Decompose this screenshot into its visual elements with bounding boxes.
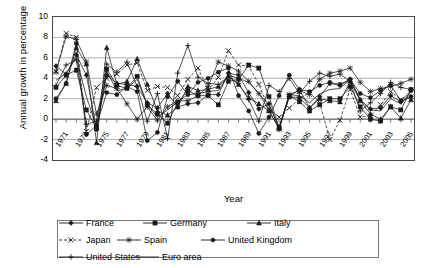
legend-item-spain[interactable]: Spain <box>116 232 200 249</box>
y-tick-8: 8 <box>26 32 48 41</box>
x-axis-tick-labels: 1971197319751977197919811983198519871989… <box>52 140 415 182</box>
legend-label: Germany <box>168 218 207 228</box>
legend-label: United Kingdom <box>226 235 292 245</box>
y-tick-10: 10 <box>26 12 48 21</box>
legend-item-japan[interactable]: Japan <box>58 232 116 249</box>
y-tick-0: 0 <box>26 114 48 123</box>
legend-item-italy[interactable]: Italy <box>246 215 322 232</box>
legend-label: Japan <box>84 235 111 245</box>
series-united-kingdom <box>54 41 413 142</box>
chart-screenshot: Annual growth in percentage 1086420-2-4 … <box>0 0 434 268</box>
y-axis-tick-labels: 1086420-2-4 <box>24 0 48 268</box>
y-tick-4: 4 <box>26 73 48 82</box>
legend-label: Euro area <box>160 252 202 262</box>
x-marker-icon <box>58 234 84 246</box>
line-marker-icon <box>134 251 160 263</box>
legend-label: France <box>84 218 114 228</box>
chart-legend: FranceGermanyItalyJapanSpainUnited Kingd… <box>57 220 379 258</box>
plus-marker-icon <box>58 251 84 263</box>
legend-label: United States <box>84 252 140 262</box>
y-tick-neg4: -4 <box>26 155 48 164</box>
legend-item-euro-area[interactable]: Euro area <box>134 249 192 266</box>
legend-item-germany[interactable]: Germany <box>142 215 246 232</box>
legend-item-united-kingdom[interactable]: United Kingdom <box>200 232 304 249</box>
diamond-marker-icon <box>58 217 84 229</box>
x-axis-title: Year <box>52 193 415 204</box>
circle-marker-icon <box>200 234 226 246</box>
legend-item-france[interactable]: France <box>58 215 142 232</box>
legend-item-united-states[interactable]: United States <box>58 249 134 266</box>
square-marker-icon <box>142 217 168 229</box>
legend-label: Spain <box>142 235 167 245</box>
star-marker-icon <box>116 234 142 246</box>
y-tick-neg2: -2 <box>26 135 48 144</box>
y-tick-2: 2 <box>26 94 48 103</box>
legend-label: Italy <box>272 218 291 228</box>
triangle-marker-icon <box>246 217 272 229</box>
y-tick-6: 6 <box>26 53 48 62</box>
